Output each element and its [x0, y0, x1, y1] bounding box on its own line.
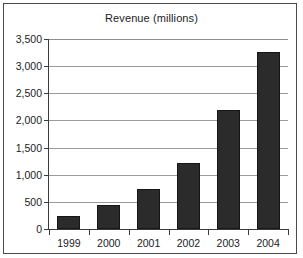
y-axis-label: 3,500 [16, 33, 42, 45]
y-axis-label: 500 [24, 196, 42, 208]
x-axis-tick [49, 229, 50, 235]
y-axis-tick [44, 93, 49, 94]
chart-title: Revenue (millions) [0, 12, 303, 24]
x-axis-tick [208, 229, 209, 235]
bar [257, 52, 280, 229]
y-axis-label: 3,000 [16, 60, 42, 72]
bar [57, 216, 80, 229]
x-axis-tick [288, 229, 289, 235]
y-axis-tick [44, 39, 49, 40]
y-axis-label: 1,500 [16, 142, 42, 154]
x-axis-label: 2002 [177, 237, 200, 249]
bar [97, 205, 120, 229]
x-axis-label: 2004 [256, 237, 279, 249]
gridline [49, 175, 288, 176]
gridline [49, 66, 288, 67]
y-axis-label: 0 [36, 223, 42, 235]
x-axis-tick [169, 229, 170, 235]
x-axis-tick [89, 229, 90, 235]
gridline [49, 148, 288, 149]
bar [137, 189, 160, 229]
x-axis-label: 2003 [217, 237, 240, 249]
gridline [49, 120, 288, 121]
y-axis-tick [44, 202, 49, 203]
gridline [49, 202, 288, 203]
y-axis-label: 2,500 [16, 87, 42, 99]
x-axis-label: 2000 [97, 237, 120, 249]
bar [177, 163, 200, 229]
y-axis-tick [44, 66, 49, 67]
x-axis-label: 2001 [137, 237, 160, 249]
y-axis-tick [44, 175, 49, 176]
y-axis-tick [44, 148, 49, 149]
plot-area: 05001,0001,5002,0002,5003,0003,500 19992… [48, 39, 288, 230]
y-axis-tick [44, 120, 49, 121]
x-axis-tick [129, 229, 130, 235]
y-axis-label: 2,000 [16, 114, 42, 126]
gridline [49, 93, 288, 94]
gridline [49, 39, 288, 40]
x-axis-label: 1999 [57, 237, 80, 249]
bar [217, 110, 240, 229]
chart-figure: Revenue (millions) 05001,0001,5002,0002,… [0, 0, 303, 258]
x-axis-tick [248, 229, 249, 235]
y-axis-label: 1,000 [16, 169, 42, 181]
